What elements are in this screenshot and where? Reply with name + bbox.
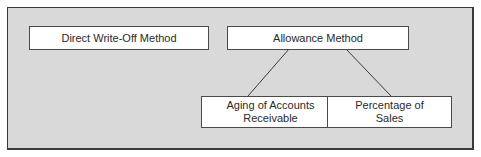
node-label-line2: Sales	[376, 112, 404, 125]
node-label: Allowance Method	[273, 32, 363, 45]
node-label-line1: Aging of Accounts	[226, 99, 314, 112]
connector-lines	[0, 0, 481, 157]
node-label: Direct Write-Off Method	[61, 32, 176, 45]
edge-allowance-to-aging	[248, 49, 289, 96]
node-label-line1: Percentage of	[355, 99, 424, 112]
edge-allowance-to-percentage	[346, 49, 391, 96]
node-percentage-of-sales: Percentage of Sales	[327, 96, 452, 128]
node-label-line2: Receivable	[243, 112, 297, 125]
node-allowance-method: Allowance Method	[227, 26, 409, 50]
node-aging-of-accounts-receivable: Aging of Accounts Receivable	[201, 96, 340, 128]
node-direct-write-off-method: Direct Write-Off Method	[29, 26, 209, 50]
